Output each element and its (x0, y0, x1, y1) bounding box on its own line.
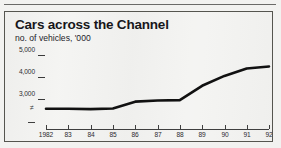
x-tick-label-90: 90 (216, 131, 234, 138)
top-divider-rule (4, 4, 276, 5)
x-tick-1 (68, 125, 69, 129)
x-tick-label-92: 92 (260, 131, 273, 138)
x-tick-3 (113, 125, 114, 129)
x-tick-2 (91, 125, 92, 129)
x-tick-label-86: 86 (126, 131, 144, 138)
x-tick-label-84: 84 (82, 131, 100, 138)
chart-frame: Cars across the Channel no. of vehicles,… (4, 11, 273, 142)
x-tick-8 (225, 125, 226, 129)
data-line-chart (5, 12, 273, 142)
x-tick-7 (202, 125, 203, 129)
chart-page: Cars across the Channel no. of vehicles,… (0, 0, 281, 148)
x-tick-label-87: 87 (149, 131, 167, 138)
series-polyline (46, 66, 269, 109)
x-tick-label-83: 83 (59, 131, 77, 138)
x-tick-5 (158, 125, 159, 129)
x-tick-label-91: 91 (238, 131, 256, 138)
x-tick-label-1982: 1982 (36, 131, 56, 138)
x-axis-line (46, 129, 269, 130)
x-tick-6 (180, 125, 181, 129)
x-tick-9 (247, 125, 248, 129)
x-tick-0 (46, 125, 47, 129)
x-tick-label-89: 89 (193, 131, 211, 138)
plot-area: 5,000 4,000 3,000 ≠ (5, 12, 273, 142)
x-tick-label-85: 85 (104, 131, 122, 138)
x-tick-label-88: 88 (171, 131, 189, 138)
x-tick-10 (269, 125, 270, 129)
x-tick-4 (135, 125, 136, 129)
